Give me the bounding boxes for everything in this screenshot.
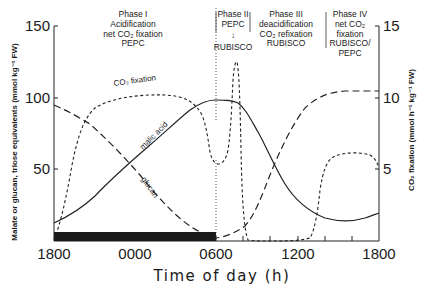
phase-4-label: Phase IV net CO₂ fixation RUBISCO/ PEPC (329, 9, 371, 58)
dark-period-bar (54, 232, 216, 241)
svg-text:Phase II: Phase II (217, 9, 248, 19)
y-left-tick-150: 150 (25, 17, 50, 34)
glucan-label: glucan (139, 175, 160, 199)
y-left-tick-50: 50 (33, 160, 50, 177)
x-tick-1200: 1200 (281, 245, 314, 262)
svg-text:deacidification: deacidification (259, 19, 313, 29)
co2-fixation-curve (54, 62, 379, 241)
svg-text:Phase III: Phase III (269, 9, 303, 19)
svg-text:PEPC: PEPC (338, 48, 361, 58)
svg-text:Phase I: Phase I (119, 9, 148, 19)
phase-2-label: Phase II PEPC ↓ RUBISCO (214, 9, 253, 52)
y-right-tick-5: 5 (383, 160, 391, 177)
svg-text:PEPC: PEPC (221, 19, 244, 29)
svg-text:net CO₂: net CO₂ (335, 19, 365, 29)
svg-text:RUBISCO/: RUBISCO/ (329, 38, 371, 48)
co2-fixation-label: CO₂ fixation (113, 73, 157, 88)
svg-text:Phase IV: Phase IV (333, 9, 368, 19)
svg-text:Acidification: Acidification (110, 19, 156, 29)
malic-acid-curve (54, 100, 379, 223)
x-tick-0600: 0600 (199, 245, 232, 262)
svg-text:RUBISCO: RUBISCO (214, 42, 253, 52)
glucan-curve (54, 91, 379, 238)
y-left-axis-title: Malate or glucan, triose equivalents (mm… (10, 43, 19, 241)
malic-acid-label: malic acid (138, 120, 170, 152)
svg-text:↓: ↓ (231, 30, 235, 40)
phase-1-label: Phase I Acidification net CO₂ fixation P… (103, 9, 163, 48)
y-right-tick-10: 10 (383, 89, 400, 106)
x-axis-title: Time of day (h) (153, 267, 291, 285)
svg-text:PEPC: PEPC (121, 38, 144, 48)
cam-chart: 150 100 50 15 10 5 1800 0000 0600 1200 1… (0, 0, 425, 294)
x-tick-1800b: 1800 (362, 245, 395, 262)
right-ticks (375, 26, 379, 169)
x-tick-0000: 0000 (118, 245, 151, 262)
y-left-tick-100: 100 (25, 89, 50, 106)
y-right-tick-15: 15 (383, 17, 400, 34)
y-right-axis-title: CO₂ fixation (mmol h⁻¹ kg⁻¹ FW) (407, 69, 416, 191)
x-tick-1800a: 1800 (37, 245, 70, 262)
phase-3-label: Phase III deacidification CO₂ refixation… (259, 9, 313, 48)
svg-text:RUBISCO: RUBISCO (267, 38, 306, 48)
left-ticks (54, 26, 58, 169)
